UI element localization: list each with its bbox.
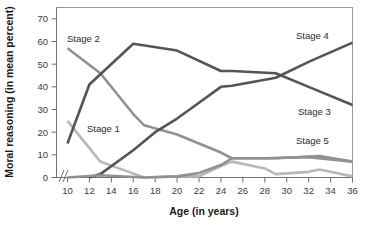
y-axis-ticks: 010203040506070 [37,13,56,183]
x-tick-label: 36 [347,185,358,196]
y-tick-label: 40 [37,81,48,92]
y-tick-label: 20 [37,127,48,138]
y-tick-label: 0 [43,172,48,183]
x-tick-label: 28 [260,185,271,196]
y-tick-label: 30 [37,104,48,115]
x-tick-label: 30 [281,185,292,196]
series-label-stage-3: Stage 3 [298,106,331,117]
y-tick-label: 70 [37,13,48,24]
x-tick-label: 34 [325,185,336,196]
series-label-stage-1: Stage 1 [87,123,120,134]
line-chart: 010203040506070 101214161820222426283032… [0,0,368,241]
x-tick-label: 14 [106,185,117,196]
y-tick-label: 10 [37,149,48,160]
x-tick-label: 16 [128,185,139,196]
x-axis-ticks: 1012141618202224262830323436 [62,178,358,197]
x-axis-title: Age (in years) [169,205,238,217]
series-label-stage-4: Stage 4 [296,30,329,41]
axis-break-icon [59,170,68,182]
x-tick-label: 32 [303,185,314,196]
x-tick-label: 24 [216,185,227,196]
x-tick-label: 10 [62,185,73,196]
chart-figure: 010203040506070 101214161820222426283032… [0,0,368,241]
series-labels: Stage 1Stage 2Stage 3Stage 4Stage 5 [67,30,331,146]
series-label-stage-5: Stage 5 [296,135,329,146]
x-tick-label: 12 [84,185,95,196]
x-tick-label: 18 [150,185,161,196]
x-tick-label: 26 [238,185,249,196]
y-axis-title: Moral reasoning (in mean percent) [3,6,15,178]
y-tick-label: 60 [37,36,48,47]
x-tick-label: 22 [194,185,205,196]
x-tick-label: 20 [172,185,183,196]
series-label-stage-2: Stage 2 [67,33,100,44]
y-tick-label: 50 [37,59,48,70]
